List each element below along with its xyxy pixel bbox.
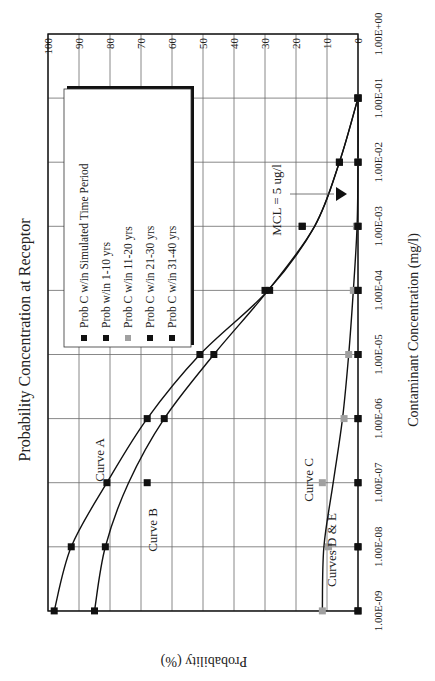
prob-tick-label: 60	[166, 38, 178, 50]
prob-tick-label: 50	[197, 38, 209, 50]
prob-tick-label: 80	[104, 38, 116, 50]
data-marker	[68, 543, 75, 550]
curves-de-label: Curves D & E	[324, 513, 339, 587]
y-axis-title: Probability (%)	[160, 653, 247, 669]
x-axis-title: Contaminant Concentration (mg/l)	[406, 233, 422, 427]
data-marker	[161, 415, 168, 422]
prob-tick-label: 30	[259, 38, 271, 50]
legend: Prob C w/in Simulated Time PeriodProb w/…	[64, 86, 194, 347]
conc-tick-label: 1.00E-06	[372, 398, 384, 439]
data-marker	[144, 479, 151, 486]
data-marker	[355, 223, 362, 230]
data-marker	[355, 479, 362, 486]
conc-tick-label: 1.00E-09	[372, 590, 384, 631]
legend-marker-icon	[169, 335, 175, 341]
legend-marker-icon	[147, 335, 153, 341]
mcl-triangle-icon	[336, 187, 347, 201]
chart-title: Probability Concentration at Receptor	[16, 218, 34, 462]
data-marker	[210, 351, 217, 358]
data-marker	[51, 607, 58, 614]
data-marker	[355, 95, 362, 102]
legend-marker-icon	[81, 335, 87, 341]
data-marker	[355, 159, 362, 166]
legend-marker-icon	[125, 335, 131, 341]
conc-tick-label: 1.00E-01	[372, 78, 384, 119]
data-marker	[336, 159, 343, 166]
prob-tick-label: 10	[321, 38, 333, 50]
conc-tick-label: 1.00E-04	[372, 270, 384, 311]
conc-tick-label: 1.00E-08	[372, 526, 384, 567]
data-marker	[266, 287, 273, 294]
data-marker	[355, 607, 362, 614]
data-marker	[341, 415, 348, 422]
prob-tick-label: 70	[135, 38, 147, 50]
curve-c-label: Curve C	[301, 458, 316, 502]
curve-b-label: Curve B	[145, 508, 160, 552]
legend-marker-icon	[103, 335, 109, 341]
data-marker	[345, 351, 352, 358]
legend-item: Prob C w/in Simulated Time Period	[78, 163, 90, 328]
legend-item: Prob C w/in 31-40 yrs	[166, 225, 179, 328]
conc-tick-label: 1.00E-05	[372, 334, 384, 375]
legend-item: Prob C w/in 11-20 yrs	[122, 226, 135, 328]
data-marker	[91, 607, 98, 614]
data-marker	[319, 607, 326, 614]
conc-tick-label: 1.00E-03	[372, 205, 384, 246]
data-marker	[355, 287, 362, 294]
data-marker	[299, 223, 306, 230]
data-marker	[355, 415, 362, 422]
data-marker	[355, 351, 362, 358]
data-marker	[196, 351, 203, 358]
legend-item: Prob w/in 1-10 yrs	[100, 242, 113, 328]
chart: Probability Concentration at Receptor Pr…	[0, 0, 435, 681]
prob-tick-label: 20	[290, 38, 302, 50]
conc-tick-label: 1.00E-07	[372, 462, 384, 503]
data-marker	[355, 543, 362, 550]
legend-item: Prob C w/in 21-30 yrs	[144, 225, 157, 328]
prob-tick-label: 90	[73, 38, 85, 50]
mcl-label: MCL = 5 ug/l	[269, 164, 284, 236]
conc-tick-label: 1.00E+00	[372, 12, 384, 56]
data-marker	[319, 479, 326, 486]
data-marker	[102, 543, 109, 550]
conc-tick-label: 1.00E-02	[372, 142, 384, 183]
data-marker	[144, 415, 151, 422]
curve-a-label: Curve A	[92, 438, 107, 482]
prob-tick-label: 40	[228, 38, 240, 50]
